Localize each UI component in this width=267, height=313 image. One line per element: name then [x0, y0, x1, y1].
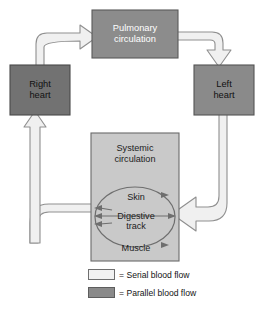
box-pulmonary-circulation: [92, 10, 178, 58]
legend-swatch-serial: [88, 269, 115, 280]
box-right-heart: [10, 65, 70, 115]
legend-row-serial: = Serial blood flow: [88, 267, 196, 282]
legend: = Serial blood flow = Parallel blood flo…: [88, 267, 196, 303]
legend-label-parallel: = Parallel blood flow: [119, 288, 196, 298]
box-systemic-circulation: [91, 133, 179, 261]
pipe-up-to-right-heart-shaft: [24, 111, 46, 243]
circulation-diagram: Pulmonary circulation Right heart Left h…: [0, 0, 267, 313]
box-left-heart: [194, 65, 254, 115]
pipe-left-heart-to-systemic: [172, 113, 227, 231]
legend-swatch-parallel: [88, 287, 115, 298]
pipe-pulmonary-to-left-heart: [176, 32, 231, 67]
legend-label-serial: = Serial blood flow: [119, 270, 189, 280]
legend-row-parallel: = Parallel blood flow: [88, 285, 196, 300]
